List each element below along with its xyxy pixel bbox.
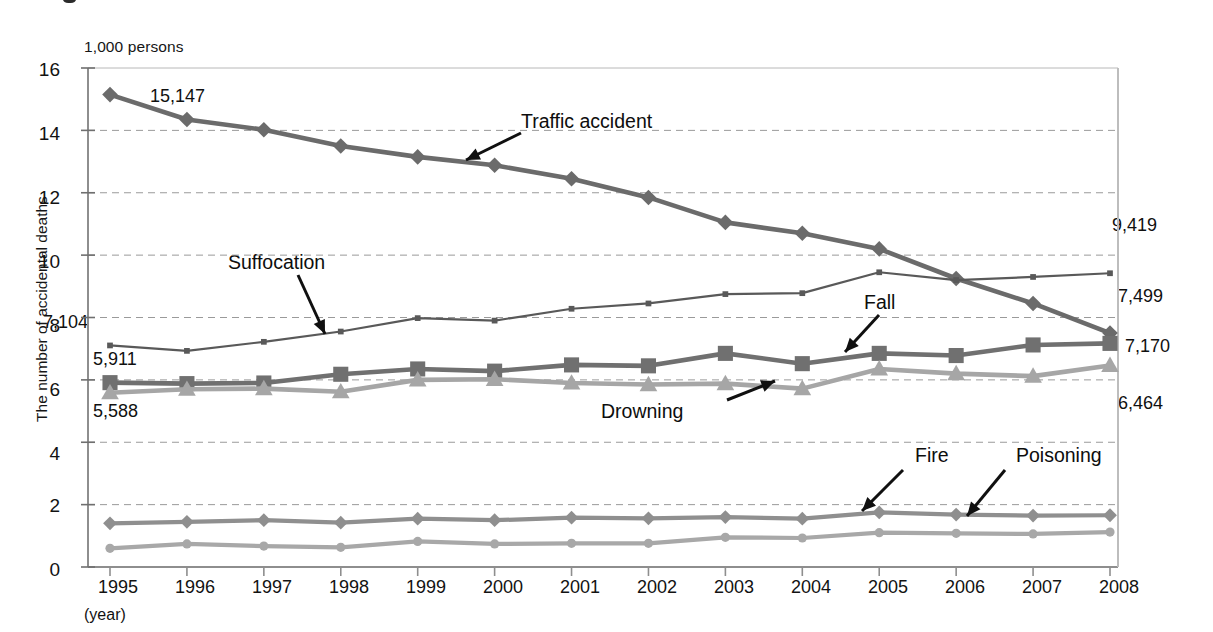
data-point — [259, 542, 268, 551]
data-point — [490, 539, 499, 548]
data-point — [871, 241, 887, 257]
annotation-arrows — [298, 133, 1005, 516]
axis-ticks — [81, 68, 1110, 576]
data-point — [182, 539, 191, 548]
arrow-traffic-accident — [466, 133, 521, 160]
series-traffic-accident — [102, 87, 1118, 341]
plot-area — [0, 0, 1213, 632]
data-point — [105, 544, 114, 553]
data-point — [1102, 336, 1117, 351]
data-point — [795, 225, 811, 241]
data-point — [876, 269, 882, 275]
data-point — [798, 533, 807, 542]
data-point — [1026, 337, 1041, 352]
data-point — [180, 515, 194, 529]
data-point — [569, 306, 575, 312]
data-point — [103, 516, 117, 530]
data-point — [795, 512, 809, 526]
data-point — [718, 510, 732, 524]
data-point — [1026, 509, 1040, 523]
data-point — [1028, 529, 1037, 538]
data-point — [565, 511, 579, 525]
data-point — [261, 339, 267, 345]
data-point — [411, 512, 425, 526]
data-point — [949, 348, 964, 363]
data-point — [333, 138, 349, 154]
data-point — [102, 87, 118, 103]
data-point — [410, 149, 426, 165]
gridlines — [88, 68, 1118, 505]
data-point — [564, 171, 580, 187]
data-point — [872, 506, 886, 520]
data-point — [1030, 274, 1036, 280]
data-point — [492, 318, 498, 324]
data-point — [564, 357, 579, 372]
data-point — [336, 543, 345, 552]
series-layer — [101, 87, 1119, 553]
data-point — [644, 539, 653, 548]
data-point — [415, 315, 421, 321]
data-point — [107, 343, 113, 349]
data-point — [334, 516, 348, 530]
data-point — [718, 215, 734, 231]
data-point — [795, 356, 810, 371]
series-drowning — [101, 357, 1119, 400]
data-point — [1105, 527, 1114, 536]
series-fire — [103, 506, 1117, 531]
data-point — [567, 539, 576, 548]
data-point — [953, 277, 959, 283]
data-point — [875, 528, 884, 537]
data-point — [641, 358, 656, 373]
data-point — [1107, 270, 1113, 276]
data-point — [1103, 508, 1117, 522]
axis-lines — [88, 68, 1118, 567]
data-point — [257, 513, 271, 527]
arrow-poisoning — [967, 470, 1005, 516]
data-point — [1025, 296, 1041, 312]
data-point — [872, 346, 887, 361]
accidental-deaths-line-chart: 1,000 persons The number of accidental d… — [0, 0, 1213, 632]
data-point — [799, 290, 805, 296]
data-point — [642, 511, 656, 525]
data-point — [179, 112, 195, 128]
data-point — [721, 533, 730, 542]
data-point — [256, 122, 272, 138]
data-point — [718, 346, 733, 361]
data-point — [641, 190, 657, 206]
data-point — [333, 367, 348, 382]
data-point — [413, 537, 422, 546]
data-point — [338, 329, 344, 335]
data-point — [952, 529, 961, 538]
data-point — [487, 158, 503, 174]
data-point — [723, 291, 729, 297]
data-point — [184, 348, 190, 354]
data-point — [949, 508, 963, 522]
arrow-suffocation — [298, 275, 325, 334]
data-point — [646, 301, 652, 307]
series-poisoning — [105, 527, 1114, 552]
data-point — [488, 513, 502, 527]
